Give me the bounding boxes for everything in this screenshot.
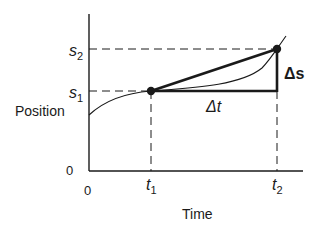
x-origin-label: 0 [84, 183, 91, 198]
t1-label: t1 [146, 176, 157, 196]
s1-label: s1 [69, 84, 83, 104]
delta-s-label: Δs [284, 65, 305, 82]
y-origin-label: 0 [66, 163, 73, 178]
delta-t-label: Δt [205, 98, 222, 115]
t2-label: t2 [272, 176, 283, 196]
point-p2 [273, 45, 281, 53]
point-p1 [147, 87, 155, 95]
x-axis-label: Time [182, 206, 213, 222]
position-curve [89, 36, 286, 115]
s2-label: s2 [69, 42, 83, 62]
y-axis-label: Position [15, 103, 65, 119]
position-time-diagram: s2 s1 Position 0 0 t1 t2 Time Δs Δt [0, 0, 319, 232]
